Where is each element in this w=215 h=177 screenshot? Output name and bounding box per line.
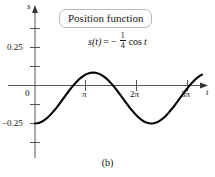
- x-axis-label: t: [206, 87, 209, 97]
- y-tick-label-zero: 0: [25, 88, 30, 98]
- y-tick-label-0-25: 0.25: [7, 42, 23, 52]
- equation-lhs: s(t): [88, 36, 101, 47]
- y-axis-arrowhead: [32, 5, 38, 13]
- figure-caption: (b): [0, 157, 215, 169]
- function-curve: [35, 73, 202, 124]
- x-tick-label-2pi: 2π: [130, 89, 139, 99]
- position-function-callout: Position function: [59, 9, 152, 28]
- equation-annotation: s(t) = − 1 4 cos t: [88, 32, 147, 50]
- fraction-denominator: 4: [120, 41, 126, 50]
- equation-sign: −: [111, 36, 117, 47]
- position-function-figure: Position function s(t) = − 1 4 cos t s t…: [0, 0, 215, 177]
- fraction-numerator: 1: [120, 32, 126, 41]
- equation-fraction: 1 4: [120, 32, 126, 50]
- y-axis-label: s: [27, 1, 31, 11]
- x-tick-label-pi: π: [82, 89, 87, 99]
- x-tick-label-3pi: 3π: [181, 89, 190, 99]
- equation-variable: t: [144, 36, 147, 47]
- equation-trig: cos: [129, 36, 142, 47]
- y-tick-label-neg-0-25: −0.25: [2, 118, 23, 128]
- equation-equals: =: [103, 36, 109, 47]
